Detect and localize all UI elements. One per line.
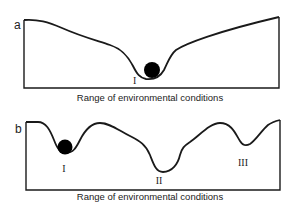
panel-a-ball-icon bbox=[144, 62, 160, 78]
panel-b-axis-caption: Range of environmental conditions bbox=[77, 191, 224, 202]
panel-b-frame bbox=[26, 120, 280, 190]
panel-a-well-I-label: I bbox=[133, 75, 136, 86]
panel-b: b I II III Range of environmental condit… bbox=[15, 120, 280, 202]
panel-b-letter: b bbox=[15, 122, 22, 136]
panel-a: a I Range of environmental conditions bbox=[14, 17, 279, 103]
stability-landscape-diagram: a I Range of environmental conditions b … bbox=[0, 0, 297, 204]
panel-b-ball-icon bbox=[58, 140, 73, 155]
panel-b-well-III-label: III bbox=[238, 157, 248, 168]
panel-a-axis-caption: Range of environmental conditions bbox=[77, 92, 224, 103]
panel-b-well-II-label: II bbox=[156, 175, 163, 186]
panel-a-letter: a bbox=[14, 18, 21, 32]
panel-b-well-I-label: I bbox=[62, 163, 65, 174]
